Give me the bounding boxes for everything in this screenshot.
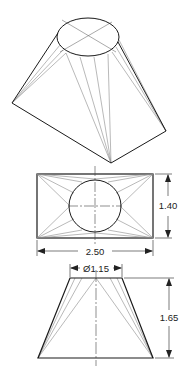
top-circle-ellipse (57, 18, 119, 56)
front-view-trapezoid (38, 278, 153, 358)
isometric-centerlines (60, 20, 116, 52)
isometric-outline (12, 18, 166, 163)
diameter-dimension-label: Ø1.15 (83, 263, 109, 274)
transition-piece-drawing: 2.50 1.40 Ø1.15 (0, 0, 190, 371)
top-view: 2.50 1.40 (37, 166, 177, 257)
height-dimension-top-label: 1.40 (159, 200, 178, 211)
width-dimension-label: 2.50 (86, 246, 105, 257)
isometric-view (12, 18, 166, 163)
front-view: Ø1.15 1.65 (38, 263, 178, 367)
height-dimension-front-label: 1.65 (160, 312, 179, 323)
top-view-centerlines (68, 166, 122, 246)
front-view-fan-lines (38, 278, 153, 358)
